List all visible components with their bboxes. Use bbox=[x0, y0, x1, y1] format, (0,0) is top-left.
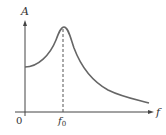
f0-label: f0 bbox=[57, 115, 66, 128]
y-axis-label: A bbox=[20, 5, 29, 18]
origin-label: 0 bbox=[16, 115, 22, 126]
resonance-curve bbox=[25, 27, 149, 103]
y-axis-arrow-icon bbox=[23, 20, 27, 26]
resonance-chart: A f 0 f0 bbox=[0, 0, 166, 135]
x-axis-arrow-icon bbox=[148, 110, 154, 114]
x-axis-label: f bbox=[155, 106, 162, 119]
